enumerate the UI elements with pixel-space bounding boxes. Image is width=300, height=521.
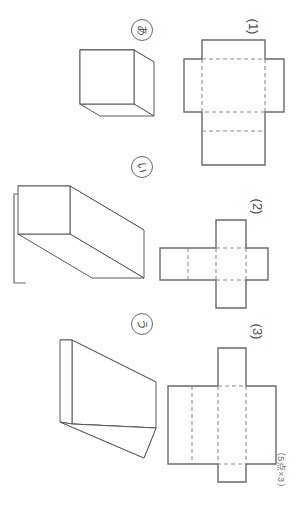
net-label-3: (3): [251, 324, 264, 340]
net-plus: [158, 218, 270, 310]
solid-label-2-text: い: [137, 162, 148, 173]
solid-label-1: あ: [131, 19, 153, 41]
points-note-text: （5点×3）: [276, 447, 286, 492]
solid-label-3: う: [131, 313, 153, 335]
net-cross-wide: [166, 346, 280, 484]
net-label-3-text: (3): [250, 324, 265, 340]
solid-long-prism: [8, 178, 158, 298]
worksheet-page: あ (1) い: [0, 0, 300, 521]
solid-label-1-text: あ: [137, 25, 148, 36]
solid-flat-slab: [32, 336, 162, 462]
solid-cube: [72, 40, 170, 130]
net-label-2: (2): [251, 199, 264, 215]
net-label-1-text: (1): [246, 19, 261, 35]
net-label-2-text: (2): [250, 199, 265, 215]
points-note: （5点×3）: [276, 447, 285, 492]
solid-label-2: い: [131, 156, 153, 178]
net-cross-tall: [182, 38, 288, 168]
solid-label-3-text: う: [137, 319, 148, 330]
net-label-1: (1): [247, 19, 260, 35]
